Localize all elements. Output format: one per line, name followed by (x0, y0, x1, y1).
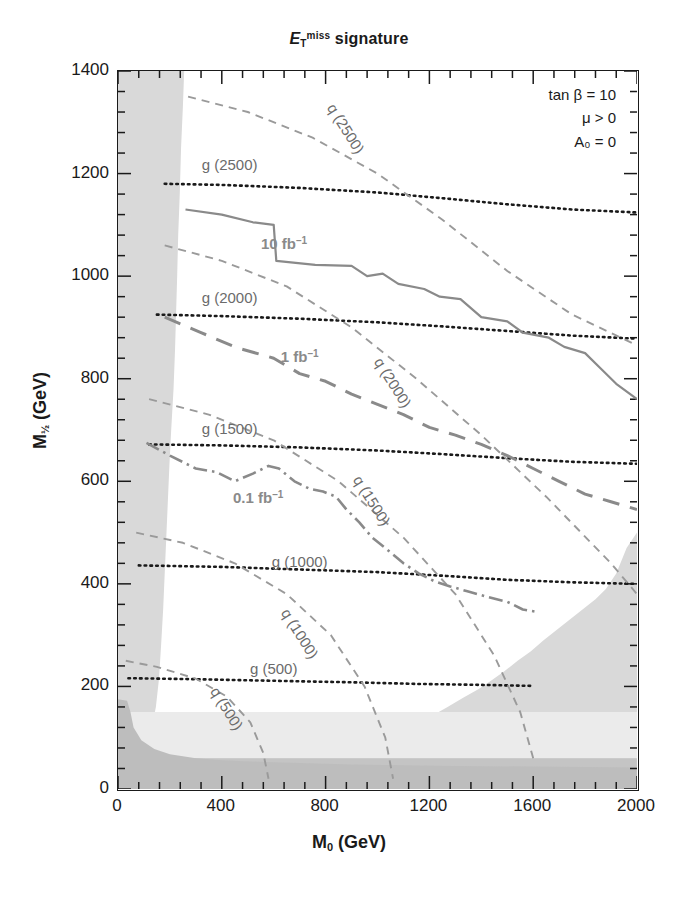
y-tick-label-400: 400 (39, 573, 109, 593)
y-axis-title-main: M (30, 434, 50, 449)
x-axis-title-unit: (GeV) (333, 832, 386, 852)
contour-label-g-1500-: g (1500) (202, 420, 258, 437)
x-tick-label-0: 0 (77, 796, 157, 816)
y-axis-title: M½ (GeV) (30, 311, 51, 511)
legend-mu: μ > 0 (549, 106, 616, 129)
y-tick-label-1000: 1000 (39, 265, 109, 285)
y-tick-label-200: 200 (39, 675, 109, 695)
contour-label-10-fb-1: 10 fb–1 (261, 235, 307, 252)
x-axis-title: M0 (GeV) (0, 832, 698, 853)
contour-1-fb-1 (165, 317, 637, 509)
plot-area: tan β = 10 μ > 0 A₀ = 0 g (2500)g (2000)… (117, 70, 639, 791)
x-tick-label-1600: 1600 (492, 796, 572, 816)
y-axis-title-sub: ½ (39, 425, 51, 434)
y-tick-label-1400: 1400 (39, 60, 109, 80)
title-suffix: signature (330, 30, 408, 47)
plot-svg (118, 71, 637, 789)
contour-label-1-fb-1: 1 fb–1 (281, 348, 319, 365)
y-tick-label-1200: 1200 (39, 163, 109, 183)
contour-g-1000- (139, 565, 637, 584)
contour-0-1-fb-1 (147, 443, 539, 612)
title-symbol: E (289, 30, 300, 47)
legend-a0: A₀ = 0 (549, 130, 616, 153)
contour-g-2000- (157, 315, 637, 339)
figure-root: ETmiss signature 02004006008001000120014… (0, 0, 698, 897)
contour-label-0-1-fb-1: 0.1 fb–1 (233, 489, 283, 506)
contour-g-1500- (149, 444, 637, 463)
contour-label-g-2000-: g (2000) (202, 289, 258, 306)
parameter-legend: tan β = 10 μ > 0 A₀ = 0 (549, 83, 616, 153)
contour-label-g-500-: g (500) (250, 660, 298, 677)
contour-label-g-2500-: g (2500) (202, 156, 258, 173)
shaded-region-left-excluded (118, 71, 184, 789)
x-axis-title-main: M (312, 832, 327, 852)
title-superscript: miss (307, 30, 331, 41)
y-axis-title-unit: (GeV) (30, 372, 50, 425)
x-tick-label-400: 400 (181, 796, 261, 816)
shaded-region-bottom-band-pale (118, 712, 637, 758)
x-tick-label-1200: 1200 (388, 796, 468, 816)
contour-g-500- (128, 678, 533, 686)
y-tick-label-0: 0 (39, 778, 109, 798)
legend-tanbeta: tan β = 10 (549, 83, 616, 106)
chart-title: ETmiss signature (0, 30, 698, 49)
contour-label-g-1000-: g (1000) (272, 553, 328, 570)
x-tick-label-800: 800 (285, 796, 365, 816)
x-tick-label-2000: 2000 (596, 796, 676, 816)
contour-g-2500- (165, 184, 637, 213)
